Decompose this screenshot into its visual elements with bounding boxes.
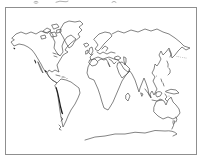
great-lakes-marks xyxy=(53,53,59,57)
kuril-dot xyxy=(180,57,181,58)
world-map-figure xyxy=(0,0,205,162)
greenland-outline xyxy=(60,21,83,48)
map-frame xyxy=(6,8,197,155)
borneo-outline xyxy=(156,92,162,98)
antilles-dot xyxy=(67,78,68,79)
japan-outline xyxy=(167,61,170,75)
madagascar-outline xyxy=(126,93,130,101)
british-isles-outline xyxy=(86,47,93,55)
mountain-marks xyxy=(13,47,63,114)
australia-outline xyxy=(154,97,180,119)
moluccas-dot xyxy=(169,96,170,97)
antarctica-coastline xyxy=(85,130,177,140)
hainan-dot xyxy=(153,80,154,81)
new-guinea-outline xyxy=(166,89,179,94)
kuril-dot xyxy=(186,58,187,59)
antilles-dot xyxy=(65,77,66,78)
kuril-dot xyxy=(177,56,178,57)
cropped-text-fragments xyxy=(34,1,116,3)
coastlines xyxy=(11,21,190,140)
kuril-dot xyxy=(178,56,179,57)
fragment-left xyxy=(34,1,38,3)
south-america-outline xyxy=(55,79,80,127)
fragment-right xyxy=(112,1,116,2)
sulawesi-outline xyxy=(165,94,167,101)
moluccas-dot xyxy=(171,98,172,99)
africa-outline xyxy=(87,57,130,110)
scandinavia-outline xyxy=(94,32,112,51)
arabia-outline xyxy=(117,62,130,78)
kuril-dot xyxy=(184,57,185,58)
world-map-svg xyxy=(0,0,205,162)
andes-range-mark xyxy=(56,87,64,114)
taiwan-dot xyxy=(156,76,157,77)
pacific-coast-mark xyxy=(34,60,36,64)
caribbean-islands xyxy=(56,75,64,77)
alaska-coast-mark xyxy=(13,47,15,49)
philippines-outline xyxy=(161,79,164,86)
central-america-mark xyxy=(45,70,47,72)
kuril-dot xyxy=(182,57,183,58)
sri-lanka-outline xyxy=(141,93,143,96)
iceland-outline xyxy=(84,43,89,47)
arctic-islands-outline xyxy=(41,24,61,39)
fragment-middle xyxy=(56,1,68,2)
